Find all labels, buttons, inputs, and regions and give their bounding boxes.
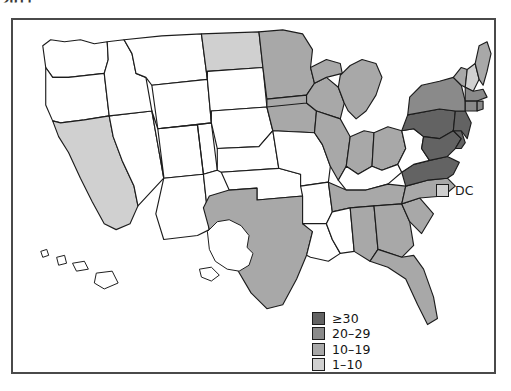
map-frame: DC ≥30 20–29 10–19 1–10 (11, 18, 496, 374)
legend-item: 20–29 (312, 327, 371, 342)
state-hi[interactable] (41, 249, 118, 289)
legend-label: 20–29 (332, 326, 371, 341)
legend-swatch (312, 358, 325, 371)
dc-annotation: DC (436, 183, 473, 198)
map-legend: ≥30 20–29 10–19 1–10 (312, 311, 371, 372)
legend-label: 10–19 (332, 342, 371, 357)
state-wy[interactable] (152, 79, 212, 128)
legend-label: ≥30 (332, 311, 359, 326)
legend-item: ≥30 (312, 311, 371, 326)
state-ar[interactable] (301, 182, 333, 224)
state-mn[interactable] (259, 30, 315, 99)
page-title: 2011 (2, 0, 33, 7)
legend-label: 1–10 (332, 357, 363, 372)
state-ri[interactable] (477, 101, 483, 111)
state-al[interactable] (350, 206, 378, 261)
us-choropleth-map (13, 20, 494, 372)
state-az[interactable] (156, 174, 210, 239)
legend-swatch (312, 343, 325, 356)
dc-label: DC (455, 183, 473, 198)
state-wa[interactable] (43, 40, 108, 78)
legend-swatch (312, 327, 325, 340)
state-ct[interactable] (465, 101, 477, 111)
state-ma[interactable] (465, 87, 487, 101)
state-ny[interactable] (408, 77, 466, 115)
legend-swatch (312, 312, 325, 325)
state-fl[interactable] (370, 249, 437, 324)
legend-item: 10–19 (312, 342, 371, 357)
legend-item: 1–10 (312, 358, 371, 373)
dc-swatch (436, 184, 449, 197)
